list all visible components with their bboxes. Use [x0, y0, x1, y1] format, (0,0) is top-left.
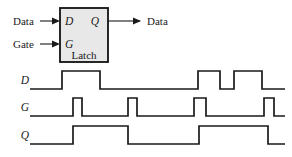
- gate-input-arrow-icon: [52, 41, 60, 48]
- q-output-arrow-icon: [133, 18, 141, 25]
- gate-input-label: Gate: [13, 38, 34, 50]
- latch-timing-figure: Data Gate Data D Q G Latch D G Q: [0, 0, 292, 157]
- waveform-label-q: Q: [21, 129, 30, 141]
- pin-label-q: Q: [91, 15, 100, 27]
- timing-diagram: D G Q: [20, 71, 285, 144]
- data-input-label: Data: [13, 15, 34, 27]
- data-input-arrow-icon: [52, 18, 60, 25]
- waveform-label-g: G: [21, 101, 30, 113]
- block-diagram: Data Gate Data D Q G Latch: [13, 8, 168, 62]
- waveform-label-d: D: [20, 74, 30, 86]
- latch-box-label: Latch: [71, 49, 97, 61]
- figure-canvas: Data Gate Data D Q G Latch D G Q: [0, 0, 292, 157]
- waveform-trace-d: [30, 71, 285, 89]
- waveform-trace-q: [30, 126, 285, 144]
- pin-label-d: D: [64, 15, 74, 27]
- waveform-trace-g: [30, 98, 285, 116]
- data-output-label: Data: [147, 15, 168, 27]
